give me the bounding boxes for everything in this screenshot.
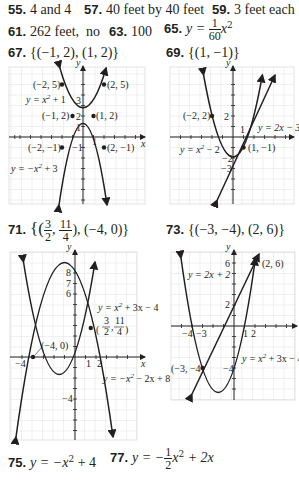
eq-y-2x-minus-3: y = 2x − 3 — [257, 122, 299, 133]
svg-text:): ) — [125, 324, 128, 336]
svg-text:−1: −1 — [72, 142, 83, 153]
svg-text:−3: −3 — [221, 163, 232, 174]
eq-y-x2-minus-2: y = x2 − 2 — [179, 143, 220, 155]
svg-text:2: 2 — [76, 111, 81, 122]
svg-text:6: 6 — [66, 288, 71, 299]
svg-text:(−2, 5): (−2, 5) — [33, 79, 60, 91]
svg-text:−4: −4 — [62, 393, 73, 404]
svg-text:(1, −1): (1, −1) — [248, 142, 275, 154]
svg-text:2: 2 — [97, 358, 102, 369]
svg-text:(−4, 0): (−4, 0) — [41, 340, 68, 352]
eq-y-x2-plus-1: y = x2 + 1 — [25, 93, 66, 105]
svg-text:1: 1 — [86, 358, 91, 369]
svg-text:(−2, 2): (−2, 2) — [183, 110, 210, 122]
svg-text:1: 1 — [76, 122, 81, 133]
svg-text:y: y — [66, 241, 72, 252]
svg-text:3: 3 — [76, 95, 81, 106]
svg-text:−3: −3 — [196, 328, 207, 339]
svg-text:3: 3 — [104, 315, 109, 326]
graph-71: y 8 7 6 y = x2 + 3x − 4 ( 3 2 , 11 4 ) (… — [10, 241, 170, 440]
svg-text:1: 1 — [240, 124, 245, 135]
svg-text:2: 2 — [251, 328, 256, 339]
svg-text:,: , — [111, 321, 114, 332]
svg-text:2: 2 — [225, 299, 230, 310]
eq-y-neg-x2-plus-3: y = −x2 + 3 — [10, 162, 58, 174]
graph-67: y x (−2, 5) (2, 5) y = x2 + 1 (−1, 2) (1… — [9, 57, 146, 205]
svg-text:(−3, −4): (−3, −4) — [171, 363, 204, 375]
svg-text:2: 2 — [224, 111, 229, 122]
eq-y-x2-plus-3x-minus-4: y = x2 + 3x − 4 — [97, 301, 158, 313]
svg-text:(2, −1): (2, −1) — [107, 142, 134, 154]
eq-y-2x-plus-2: y = 2x + 2 — [187, 269, 230, 280]
graphs-canvas: y x (−2, 5) (2, 5) y = x2 + 1 (−1, 2) (1… — [0, 0, 299, 483]
svg-text:1: 1 — [92, 136, 97, 147]
svg-text:y: y — [225, 57, 231, 68]
eq-y-x2-plus-3x-minus-4: y = x2 + 3x − 4 — [241, 352, 299, 364]
svg-text:−4: −4 — [182, 328, 193, 339]
graph-73: y 6 (2, 6) y = 2x + 2 2 −4 −3 1 2 y = x2… — [171, 241, 299, 400]
svg-text:(−2, −1): (−2, −1) — [28, 142, 61, 154]
svg-text:2: 2 — [104, 326, 109, 337]
eq-y-neg-x2-minus-2x-plus-8: y = −x2 − 2x + 8 — [102, 372, 170, 384]
svg-text:−4: −4 — [223, 363, 234, 374]
svg-text:(−1, 2): (−1, 2) — [42, 110, 69, 122]
graph-69: y (−2, 2) 2 1 y = 2x − 3 y = x2 − 2 (1, … — [170, 57, 299, 204]
svg-text:y: y — [225, 241, 231, 252]
svg-text:4: 4 — [117, 326, 122, 337]
svg-text:(2, 6): (2, 6) — [262, 258, 284, 270]
svg-text:x: x — [140, 358, 146, 369]
svg-text:−4: −4 — [15, 358, 26, 369]
svg-text:(1, 2): (1, 2) — [96, 110, 118, 122]
svg-text:8: 8 — [66, 267, 71, 278]
svg-text:1: 1 — [243, 328, 248, 339]
svg-text:(2, 5): (2, 5) — [107, 79, 129, 91]
svg-text:y: y — [75, 57, 81, 68]
svg-text:x: x — [140, 138, 146, 149]
svg-text:11: 11 — [115, 315, 125, 326]
svg-text:6: 6 — [225, 258, 230, 269]
